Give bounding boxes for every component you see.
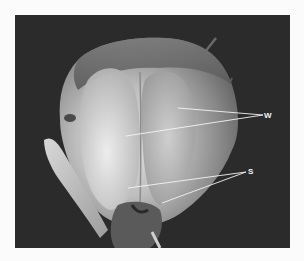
label-w: W [264,112,272,120]
specimen-photo [15,15,290,248]
specimen-illustration [15,15,290,248]
label-s: S [248,168,253,176]
